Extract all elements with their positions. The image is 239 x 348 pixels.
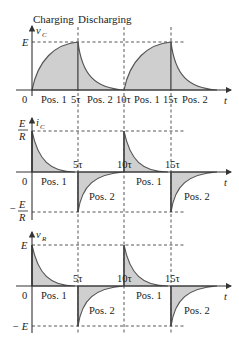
svg-text:Pos. 1: Pos. 1 (41, 290, 67, 301)
svg-text:10τ: 10τ (117, 273, 132, 284)
svg-text:0: 0 (22, 290, 27, 301)
svg-text:10τ: 10τ (116, 94, 131, 105)
plot-ic: i C E R − E R 0 Pos. 1 5τ Pos. 2 10τ Pos… (10, 117, 231, 223)
charging-label: Charging (33, 13, 74, 25)
svg-text:R: R (18, 131, 26, 142)
svg-text:R: R (41, 235, 47, 243)
svg-text:Pos. 2: Pos. 2 (89, 305, 115, 316)
discharging-label: Discharging (78, 13, 132, 25)
svg-text:5τ: 5τ (73, 159, 82, 170)
svg-text:− E: − E (12, 321, 29, 332)
svg-text:Pos. 1: Pos. 1 (136, 176, 162, 187)
svg-text:Pos. 2: Pos. 2 (89, 191, 115, 202)
svg-text:t: t (224, 291, 228, 302)
svg-text:15τ: 15τ (165, 273, 180, 284)
svg-text:E: E (20, 240, 28, 251)
svg-text:5τ: 5τ (73, 273, 82, 284)
svg-text:10τ: 10τ (117, 159, 132, 170)
svg-text:Pos. 2: Pos. 2 (182, 94, 208, 105)
vc-e-level: E (21, 37, 29, 48)
svg-text:Pos. 1: Pos. 1 (136, 290, 162, 301)
svg-text:0: 0 (22, 176, 27, 187)
svg-text:E: E (18, 199, 26, 210)
svg-text:5τ: 5τ (71, 94, 80, 105)
svg-text:t: t (224, 95, 228, 106)
plot-vc: v C E 0 Pos. 1 5τ Pos. 2 10τ Pos. 1 15τ … (16, 25, 231, 106)
svg-text:E: E (18, 118, 26, 129)
svg-text:−: − (10, 203, 16, 214)
svg-text:Pos. 1: Pos. 1 (41, 176, 67, 187)
svg-text:Pos. 2: Pos. 2 (184, 191, 210, 202)
svg-text:C: C (40, 123, 45, 131)
svg-text:C: C (42, 31, 47, 39)
svg-text:15τ: 15τ (163, 94, 178, 105)
svg-text:Pos. 2: Pos. 2 (184, 305, 210, 316)
vr-axis-label: v (36, 229, 41, 240)
svg-text:Pos. 1: Pos. 1 (134, 94, 160, 105)
vc-axis-label: v (36, 25, 41, 36)
ic-axis-label: i (36, 117, 39, 128)
svg-text:Pos. 2: Pos. 2 (87, 94, 113, 105)
rc-waveform-diagram: Charging Discharging v C E 0 Pos. 1 5τ P… (0, 0, 239, 348)
svg-text:t: t (224, 177, 228, 188)
svg-text:0: 0 (22, 94, 27, 105)
svg-text:15τ: 15τ (165, 159, 180, 170)
plot-vr: v R E − E 0 Pos. 1 5τ Pos. 2 10τ Pos. 1 … (12, 229, 231, 333)
svg-text:Pos. 1: Pos. 1 (41, 94, 67, 105)
svg-text:R: R (18, 212, 26, 223)
